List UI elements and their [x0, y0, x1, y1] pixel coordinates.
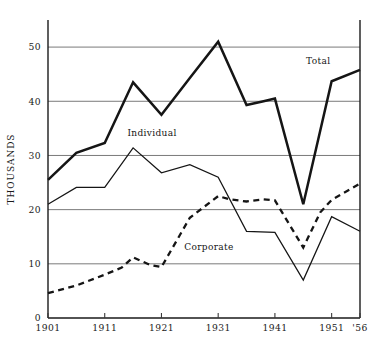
y-axis-title: THOUSANDS [6, 134, 16, 205]
gridlines-group [48, 47, 360, 264]
y-tick-label-50: 50 [29, 41, 42, 52]
y-axis-title-group: THOUSANDS [6, 134, 16, 205]
x-tick-label-1901: 1901 [36, 322, 61, 333]
series-line-corporate [48, 184, 360, 293]
income-tax-returns-line-chart: 01020304050 190119111921193119411951'56 … [0, 0, 377, 347]
y-tick-label-30: 30 [29, 150, 42, 161]
y-tick-label-20: 20 [29, 204, 42, 215]
series-label-individual: Individual [127, 128, 176, 138]
y-tick-label-10: 10 [29, 258, 42, 269]
x-tick-label-1951: 1951 [319, 322, 344, 333]
y-tick-label-40: 40 [29, 96, 42, 107]
x-ticks-group [48, 313, 360, 318]
series-label-corporate: Corporate [184, 242, 234, 252]
x-tick-label-1911: 1911 [92, 322, 117, 333]
series-group [48, 42, 360, 293]
y-tick-labels-group: 01020304050 [29, 41, 42, 323]
x-tick-label-1921: 1921 [149, 322, 174, 333]
series-line-individual [48, 148, 360, 280]
x-tick-label-56: '56 [352, 322, 367, 333]
x-tick-labels-group: 190119111921193119411951'56 [36, 322, 368, 333]
series-label-total: Total [306, 56, 330, 66]
chart-container: 01020304050 190119111921193119411951'56 … [0, 0, 377, 347]
x-tick-label-1931: 1931 [206, 322, 231, 333]
series-labels-group: TotalIndividualCorporate [127, 56, 330, 251]
x-tick-label-1941: 1941 [262, 322, 287, 333]
